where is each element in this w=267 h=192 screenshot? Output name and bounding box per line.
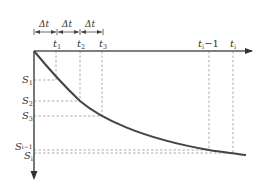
- settlement-time-diagram: Δt Δt Δt t1 t2 t3 ti−1 ti S1 S2 S3 Si−1 …: [0, 0, 267, 192]
- label-t1: t1: [53, 38, 61, 51]
- label-S1: S1: [22, 74, 33, 87]
- label-ti-minus-1: ti−1: [198, 38, 219, 51]
- settlement-curve: [34, 51, 246, 155]
- interval-label-1: Δt: [38, 19, 49, 29]
- label-S2: S2: [22, 95, 33, 108]
- label-S3: S3: [22, 110, 33, 123]
- label-t2: t2: [77, 38, 85, 51]
- interval-label-2: Δt: [61, 19, 72, 29]
- time-labels: t1 t2 t3 ti−1 ti: [53, 38, 236, 51]
- settlement-labels: S1 S2 S3 Si−1 Si: [15, 74, 33, 163]
- interval-brackets: Δt Δt Δt: [34, 19, 103, 35]
- settlement-guides: [34, 80, 233, 153]
- label-Si: Si: [24, 150, 33, 163]
- label-ti: ti: [230, 38, 236, 51]
- interval-label-3: Δt: [84, 19, 95, 29]
- settlement-axis-arrow: [31, 171, 38, 180]
- label-t3: t3: [99, 38, 107, 51]
